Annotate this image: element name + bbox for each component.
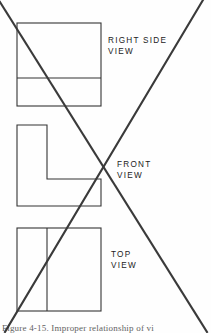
cross-line-ascending [5, 0, 203, 332]
right-side-view-geometry [17, 23, 101, 106]
front-view-label: FRONT VIEW [117, 160, 151, 181]
technical-drawing-figure: RIGHT SIDE VIEW FRONT VIEW TOP VIEW Figu… [0, 0, 211, 333]
right-side-view-label: RIGHT SIDE VIEW [108, 36, 167, 57]
right-side-view-outline [17, 23, 101, 106]
drawing-canvas [0, 0, 211, 333]
cancellation-cross [0, 0, 207, 332]
top-view-label: TOP VIEW [111, 250, 137, 271]
figure-caption: Figure 4-15. Improper relationship of vi [2, 323, 211, 333]
